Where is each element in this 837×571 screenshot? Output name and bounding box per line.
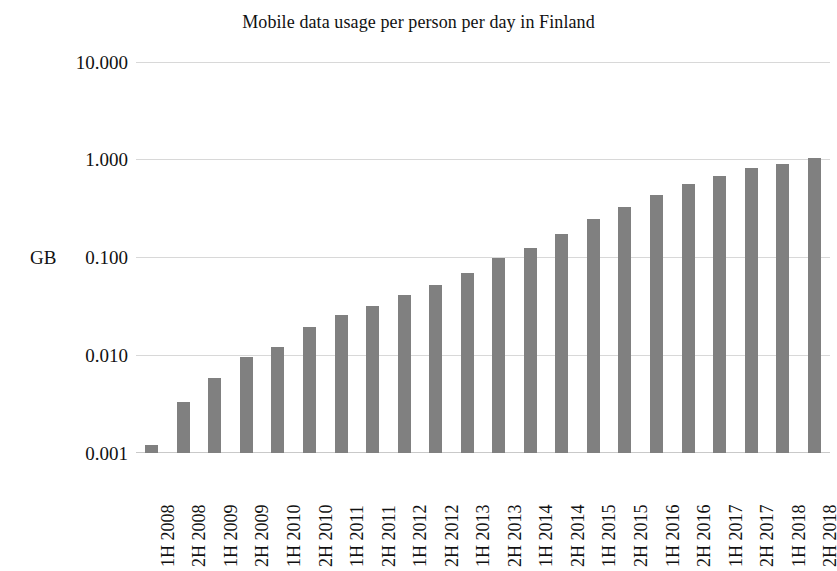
- x-tick-label-2h-2013: 2H 2013: [506, 455, 524, 567]
- bar-2h-2012[interactable]: [429, 285, 442, 453]
- bar-2h-2016[interactable]: [682, 184, 695, 453]
- y-tick-label-0001: 0.001: [18, 444, 128, 463]
- x-tick-label-2h-2015: 2H 2015: [632, 455, 650, 567]
- bar-1h-2010[interactable]: [271, 347, 284, 453]
- bar-1h-2013[interactable]: [461, 273, 474, 453]
- x-tick-label-2h-2011: 2H 2011: [380, 455, 398, 567]
- x-tick-label-1h-2008: 1H 2008: [159, 455, 177, 567]
- bar-2h-2015[interactable]: [618, 207, 631, 453]
- bar-2h-2018[interactable]: [808, 158, 821, 453]
- x-tick-label-2h-2014: 2H 2014: [569, 455, 587, 567]
- bar-1h-2008[interactable]: [145, 445, 158, 453]
- x-tick-label-1h-2010: 1H 2010: [285, 455, 303, 567]
- bar-1h-2014[interactable]: [524, 248, 537, 453]
- bar-2h-2013[interactable]: [492, 258, 505, 453]
- x-tick-label-2h-2017: 2H 2017: [758, 455, 776, 567]
- y-axis-title: GB: [30, 248, 56, 267]
- x-tick-label-1h-2018: 1H 2018: [790, 455, 808, 567]
- y-tick-label-10000: 10.000: [18, 53, 128, 72]
- bar-series: [136, 62, 830, 453]
- x-axis-tick-labels: 1H 20082H 20081H 20092H 20091H 20102H 20…: [136, 455, 830, 567]
- x-tick-label-1h-2015: 1H 2015: [600, 455, 618, 567]
- bar-1h-2009[interactable]: [208, 378, 221, 453]
- y-tick-label-1000: 1.000: [18, 150, 128, 169]
- plot-area: [136, 62, 830, 453]
- bar-2h-2010[interactable]: [303, 327, 316, 453]
- x-tick-label-2h-2009: 2H 2009: [253, 455, 271, 567]
- bar-1h-2015[interactable]: [587, 219, 600, 453]
- x-tick-label-2h-2012: 2H 2012: [443, 455, 461, 567]
- bar-2h-2009[interactable]: [240, 357, 253, 453]
- x-tick-label-2h-2016: 2H 2016: [695, 455, 713, 567]
- chart-title: Mobile data usage per person per day in …: [0, 12, 837, 33]
- x-tick-label-1h-2011: 1H 2011: [348, 455, 366, 567]
- x-tick-label-1h-2016: 1H 2016: [664, 455, 682, 567]
- x-tick-label-2h-2018: 2H 2018: [821, 455, 837, 567]
- bar-1h-2017[interactable]: [713, 176, 726, 453]
- bar-1h-2012[interactable]: [398, 295, 411, 453]
- bar-2h-2014[interactable]: [555, 234, 568, 453]
- y-tick-label-0010: 0.010: [18, 346, 128, 365]
- x-tick-label-1h-2017: 1H 2017: [727, 455, 745, 567]
- chart-container: Mobile data usage per person per day in …: [0, 0, 837, 571]
- bar-1h-2016[interactable]: [650, 195, 663, 453]
- bar-1h-2018[interactable]: [776, 164, 789, 453]
- bar-2h-2011[interactable]: [366, 306, 379, 453]
- x-tick-label-2h-2008: 2H 2008: [190, 455, 208, 567]
- bar-2h-2017[interactable]: [745, 168, 758, 453]
- x-tick-label-1h-2009: 1H 2009: [222, 455, 240, 567]
- x-tick-label-1h-2014: 1H 2014: [537, 455, 555, 567]
- x-tick-label-2h-2010: 2H 2010: [317, 455, 335, 567]
- x-tick-label-1h-2012: 1H 2012: [411, 455, 429, 567]
- bar-2h-2008[interactable]: [177, 402, 190, 453]
- bar-1h-2011[interactable]: [335, 315, 348, 453]
- x-tick-label-1h-2013: 1H 2013: [474, 455, 492, 567]
